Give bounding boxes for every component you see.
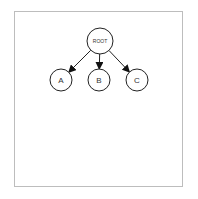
node-label: A: [58, 76, 64, 85]
node-label: C: [134, 76, 140, 85]
edge-root-c: [109, 50, 129, 72]
node-label: B: [96, 76, 101, 85]
node-a: A: [50, 69, 72, 91]
node-b: B: [88, 69, 110, 91]
node-root: ROOT: [87, 28, 113, 54]
node-c: C: [126, 69, 148, 91]
edge-root-a: [69, 50, 91, 72]
tree-diagram: ROOTABC: [0, 0, 198, 199]
node-label: ROOT: [93, 38, 107, 44]
